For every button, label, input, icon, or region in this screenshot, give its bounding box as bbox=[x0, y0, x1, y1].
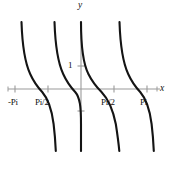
y-tick-label-one: 1 bbox=[68, 61, 73, 70]
cotangent-graph-figure: x y 1 -Pi Pi/2 Pi/2 Pi bbox=[0, 0, 170, 169]
cot-branch-4 bbox=[120, 22, 154, 151]
cot-branch-2 bbox=[55, 22, 82, 151]
x-tick-label-neg-pi: -Pi bbox=[8, 98, 18, 107]
x-tick-label-pos-pi-half: Pi/2 bbox=[101, 98, 115, 107]
cotangent-curve-group bbox=[22, 22, 154, 151]
y-axis-label: y bbox=[78, 1, 82, 11]
x-axis-label: x bbox=[160, 84, 164, 94]
plot-canvas bbox=[0, 0, 170, 169]
x-tick-label-pos-pi: Pi bbox=[140, 98, 147, 107]
x-tick-label-neg-pi-half: Pi/2 bbox=[35, 98, 49, 107]
cot-branch-1 bbox=[22, 22, 56, 151]
